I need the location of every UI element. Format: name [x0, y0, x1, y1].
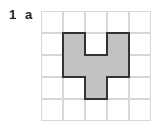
question-number: 1: [9, 7, 16, 22]
shaded-shape: [41, 11, 151, 121]
question-part: a: [25, 7, 32, 22]
